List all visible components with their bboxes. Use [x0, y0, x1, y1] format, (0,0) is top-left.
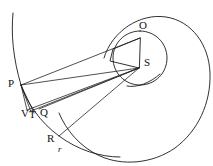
- point-label-V: V: [21, 108, 29, 119]
- geometry-figure: P O S V T Q R r: [0, 0, 213, 166]
- point-label-P: P: [8, 78, 14, 89]
- chord-Q-S: [39, 68, 139, 109]
- point-label-S: S: [144, 57, 150, 68]
- point-label-R: R: [47, 133, 54, 144]
- point-label-O: O: [139, 20, 147, 31]
- figure-canvas: [0, 0, 213, 166]
- point-label-Q: Q: [40, 107, 48, 118]
- point-label-r: r: [58, 145, 62, 154]
- quadrilateral: [110, 38, 140, 68]
- chord-P-S: [21, 68, 139, 85]
- upper-left-arc: [12, 13, 21, 85]
- point-label-T: T: [29, 109, 36, 120]
